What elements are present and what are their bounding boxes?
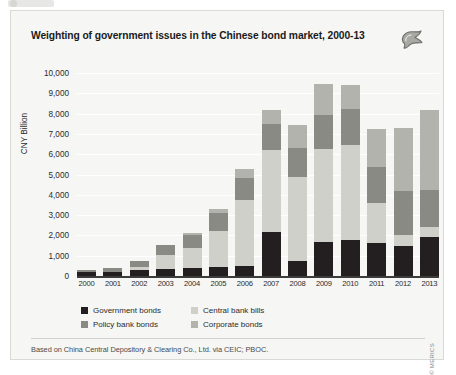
- bar-segment-2010-policy-bank-bonds: [341, 109, 360, 146]
- bar-segment-2004-government-bonds: [183, 268, 202, 276]
- merics-logo-icon: [396, 27, 426, 53]
- legend-government-bonds[interactable]: Government bonds: [81, 306, 191, 315]
- bar-segment-2008-central-bank-bills: [288, 177, 307, 261]
- bar-segment-2008-policy-bank-bonds: [288, 148, 307, 177]
- y-tick-8000: 8,000: [9, 109, 69, 118]
- bar-segment-2010-central-bank-bills: [341, 145, 360, 240]
- bar-segment-2010-corporate-bonds: [341, 85, 360, 108]
- bar-segment-2007-corporate-bonds: [262, 110, 281, 124]
- x-tick-2001: 2001: [103, 279, 122, 293]
- legend-central-bank-bills-label: Central bank bills: [203, 306, 264, 315]
- bar-2005[interactable]: [209, 73, 228, 276]
- bar-segment-2006-central-bank-bills: [235, 200, 254, 266]
- x-tick-2013: 2013: [420, 279, 439, 293]
- x-tick-2011: 2011: [367, 279, 386, 293]
- bar-segment-2005-central-bank-bills: [209, 231, 228, 267]
- bar-segment-2011-government-bonds: [367, 243, 386, 276]
- bar-segment-2007-policy-bank-bonds: [262, 124, 281, 150]
- x-tick-2009: 2009: [314, 279, 333, 293]
- copyright-credit: © MERICS: [429, 343, 435, 375]
- bar-2012[interactable]: [394, 73, 413, 276]
- x-tick-2012: 2012: [394, 279, 413, 293]
- y-tick-3000: 3,000: [9, 211, 69, 220]
- bar-segment-2009-central-bank-bills: [314, 149, 333, 241]
- bar-2013[interactable]: [420, 73, 439, 276]
- bar-segment-2013-central-bank-bills: [420, 227, 439, 238]
- legend-policy-bank-bonds[interactable]: Policy bank bonds: [81, 320, 191, 329]
- y-tick-7000: 7,000: [9, 129, 69, 138]
- bar-segment-2012-government-bonds: [394, 246, 413, 276]
- bar-segment-2009-government-bonds: [314, 242, 333, 277]
- y-tick-4000: 4,000: [9, 190, 69, 199]
- bar-segment-2003-government-bonds: [156, 269, 175, 276]
- bar-segment-2011-corporate-bonds: [367, 129, 386, 168]
- legend-central-bank-bills-swatch-icon: [191, 307, 198, 314]
- bar-segment-2004-policy-bank-bonds: [183, 235, 202, 248]
- bar-segment-2006-policy-bank-bonds: [235, 178, 254, 200]
- bar-segment-2013-corporate-bonds: [420, 110, 439, 190]
- y-tick-10000: 10,000: [9, 69, 69, 78]
- bar-segment-2005-policy-bank-bonds: [209, 213, 228, 231]
- bar-segment-2005-government-bonds: [209, 267, 228, 276]
- bar-segment-2003-central-bank-bills: [156, 255, 175, 269]
- bar-segment-2011-central-bank-bills: [367, 203, 386, 243]
- chart-card: Weighting of government issues in the Ch…: [10, 10, 444, 360]
- bar-segment-2013-government-bonds: [420, 237, 439, 276]
- y-tick-9000: 9,000: [9, 89, 69, 98]
- bar-segment-2009-policy-bank-bonds: [314, 115, 333, 150]
- x-tick-2008: 2008: [288, 279, 307, 293]
- bar-segment-2001-government-bonds: [103, 272, 122, 276]
- legend-government-bonds-label: Government bonds: [93, 306, 161, 315]
- bar-2008[interactable]: [288, 73, 307, 276]
- bar-group: [77, 73, 439, 276]
- chart-title: Weighting of government issues in the Ch…: [31, 30, 391, 42]
- legend-policy-bank-bonds-swatch-icon: [81, 321, 88, 328]
- bar-segment-2011-policy-bank-bonds: [367, 167, 386, 203]
- bar-segment-2010-government-bonds: [341, 240, 360, 276]
- bar-segment-2007-central-bank-bills: [262, 150, 281, 232]
- bar-segment-2003-policy-bank-bonds: [156, 245, 175, 255]
- legend-government-bonds-swatch-icon: [81, 307, 88, 314]
- source-note: Based on China Central Depository & Clea…: [31, 345, 268, 354]
- legend-corporate-bonds[interactable]: Corporate bonds: [191, 320, 341, 329]
- footer-divider: [31, 338, 425, 339]
- bar-segment-2006-corporate-bonds: [235, 169, 254, 177]
- x-tick-2007: 2007: [262, 279, 281, 293]
- bar-segment-2004-central-bank-bills: [183, 248, 202, 268]
- bar-segment-2006-government-bonds: [235, 266, 254, 276]
- bar-2001[interactable]: [103, 73, 122, 276]
- bar-2004[interactable]: [183, 73, 202, 276]
- bar-segment-2007-government-bonds: [262, 232, 281, 276]
- legend-corporate-bonds-swatch-icon: [191, 321, 198, 328]
- bar-segment-2012-corporate-bonds: [394, 128, 413, 191]
- bar-2011[interactable]: [367, 73, 386, 276]
- x-tick-2005: 2005: [209, 279, 228, 293]
- bar-segment-2013-policy-bank-bonds: [420, 190, 439, 227]
- page-artifact-dot: [10, 0, 17, 7]
- x-tick-2000: 2000: [77, 279, 96, 293]
- bar-2003[interactable]: [156, 73, 175, 276]
- x-tick-2004: 2004: [183, 279, 202, 293]
- y-axis-labels: 10,000 9,000 8,000 7,000 6,000 5,000 4,0…: [11, 73, 69, 276]
- bar-segment-2008-corporate-bonds: [288, 125, 307, 147]
- legend-central-bank-bills[interactable]: Central bank bills: [191, 306, 341, 315]
- y-tick-1000: 1,000: [9, 251, 69, 260]
- bar-segment-2002-government-bonds: [130, 270, 149, 276]
- x-tick-2002: 2002: [130, 279, 149, 293]
- bar-2006[interactable]: [235, 73, 254, 276]
- bar-segment-2012-central-bank-bills: [394, 235, 413, 246]
- chart-legend: Government bondsCentral bank billsPolicy…: [81, 303, 361, 331]
- bar-2010[interactable]: [341, 73, 360, 276]
- y-tick-6000: 6,000: [9, 150, 69, 159]
- y-tick-2000: 2,000: [9, 231, 69, 240]
- bar-2009[interactable]: [314, 73, 333, 276]
- x-tick-2010: 2010: [341, 279, 360, 293]
- page-artifact: [8, 0, 54, 7]
- bar-2002[interactable]: [130, 73, 149, 276]
- x-tick-2003: 2003: [156, 279, 175, 293]
- y-tick-0: 0: [9, 272, 69, 281]
- y-tick-5000: 5,000: [9, 170, 69, 179]
- bar-2000[interactable]: [77, 73, 96, 276]
- legend-corporate-bonds-label: Corporate bonds: [203, 320, 263, 329]
- bar-2007[interactable]: [262, 73, 281, 276]
